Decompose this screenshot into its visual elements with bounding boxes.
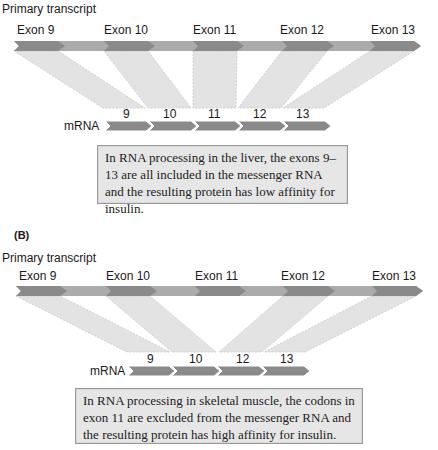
mrna-segment-10 [172, 366, 220, 376]
exon-label-a-10: Exon 10 [104, 23, 148, 37]
exon-block-11 [193, 41, 244, 51]
exon-label-b-11: Exon 11 [195, 269, 238, 283]
exon-label-a-13: Exon 13 [371, 23, 415, 37]
alternative-splicing-diagram [0, 0, 438, 450]
exon-label-b-12: Exon 12 [281, 269, 325, 283]
mrna-segment-label-a-9: 9 [123, 107, 130, 121]
mrna-segment-label-a-11: 11 [208, 107, 220, 121]
panel-label-b: (B) [14, 229, 29, 241]
mrna-segment-12 [217, 366, 265, 376]
mrna-segment-11 [194, 121, 241, 131]
mrna-segment-9 [105, 121, 152, 131]
mrna-segment-13 [262, 366, 310, 376]
mrna-segment-label-a-13: 13 [296, 107, 309, 121]
exon-block-9 [14, 41, 65, 51]
mrna-segment-label-b-12: 12 [236, 352, 249, 366]
exon-label-b-13: Exon 13 [372, 269, 416, 283]
exon-block-10 [106, 286, 157, 296]
mrna-segment-label-b-13: 13 [280, 352, 293, 366]
mrna-segment-label-b-10: 10 [189, 352, 202, 366]
note-liver: In RNA processing in the liver, the exon… [97, 145, 348, 204]
exon-block-11 [195, 286, 246, 296]
mrna-segment-13 [283, 121, 331, 131]
exon-block-10 [104, 41, 155, 51]
exon-block-13 [370, 41, 421, 51]
exon-block-13 [372, 286, 423, 296]
note-skeletal-muscle: In RNA processing in skeletal muscle, th… [75, 388, 363, 444]
exon-label-a-12: Exon 12 [280, 23, 324, 37]
exon-label-b-10: Exon 10 [106, 269, 150, 283]
exon-block-12 [283, 286, 335, 296]
mrna-label-b: mRNA [90, 364, 125, 378]
panel-b [16, 286, 423, 376]
mrna-segment-9 [128, 366, 175, 376]
mrna-segment-label-b-9: 9 [147, 352, 154, 366]
primary-transcript-title-a: Primary transcript [2, 2, 96, 16]
exon-block-9 [16, 286, 67, 296]
primary-transcript-title-b: Primary transcript [2, 251, 96, 265]
exon-label-a-9: Exon 9 [17, 23, 54, 37]
mrna-segment-label-a-10: 10 [163, 107, 176, 121]
exon-label-a-11: Exon 11 [193, 23, 236, 37]
mrna-segment-12 [238, 121, 286, 131]
exon-label-b-9: Exon 9 [19, 269, 56, 283]
splice-mapping-11 [193, 51, 237, 108]
mrna-label-a: mRNA [64, 119, 99, 133]
mrna-segment-10 [149, 121, 197, 131]
exon-block-12 [282, 41, 334, 51]
mrna-segment-label-a-12: 12 [253, 107, 266, 121]
